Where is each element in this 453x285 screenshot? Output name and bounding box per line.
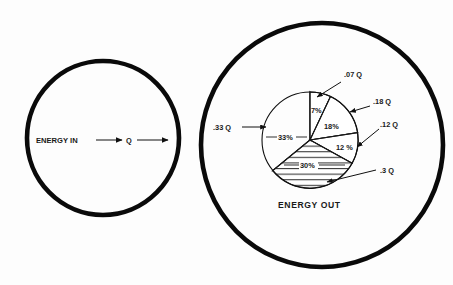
callout-line-12q <box>357 129 379 147</box>
pie-label-18: 18% <box>324 122 339 131</box>
callout-label-18q: .18 Q <box>373 97 391 106</box>
energy-balance-diagram: ENERGY IN Q <box>0 0 453 285</box>
energy-in-group: ENERGY IN Q <box>27 61 179 215</box>
callout-line-18q <box>350 106 370 112</box>
pie-label-7: 7% <box>311 106 322 115</box>
pie-label-30: 30% <box>300 161 315 170</box>
energy-in-flow-symbol: Q <box>126 136 132 145</box>
energy-out-caption: ENERGY OUT <box>278 200 341 210</box>
energy-out-group: 33% 7% 18% 12 % 30% <box>201 23 443 267</box>
figure-canvas: ENERGY IN Q <box>0 0 453 285</box>
energy-in-label: ENERGY IN <box>36 136 78 145</box>
callout-label-07q: .07 Q <box>344 70 362 79</box>
callout-line-07q <box>317 82 341 97</box>
energy-out-pie-chart: 33% 7% 18% 12 % 30% <box>262 92 358 188</box>
pie-label-33: 33% <box>278 133 293 142</box>
callout-label-3q: .3 Q <box>380 166 394 175</box>
callout-label-12q: .12 Q <box>380 120 398 129</box>
callout-label-33q: .33 Q <box>213 123 231 132</box>
pie-label-12: 12 % <box>336 143 353 152</box>
